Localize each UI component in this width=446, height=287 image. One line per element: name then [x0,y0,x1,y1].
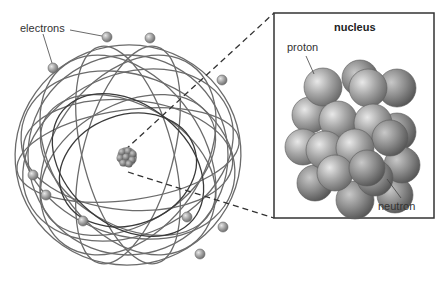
proton-label: proton [287,42,318,53]
zoom-connector-lines [125,13,274,218]
electrons-leader-lines [43,30,102,63]
neutron-label: neutron [378,201,415,212]
small-nucleus [117,147,138,168]
nucleus-title: nucleus [334,22,376,33]
large-nucleus [285,60,420,219]
electrons-label: electrons [20,23,65,34]
atom-diagram [0,0,446,287]
